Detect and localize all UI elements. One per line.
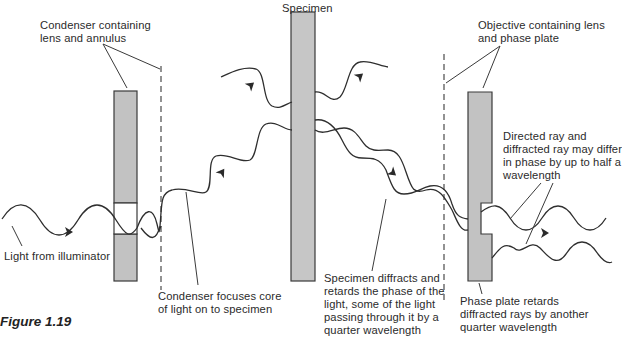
directed-ray-label: Directed ray and diffracted ray may diff… [503,130,622,182]
phase-plate-leader-line [479,283,482,294]
diffracted-wave-out [315,128,468,230]
phase-plate-label: Phase plate retards diffracted rays by a… [460,295,589,334]
condenser-leader-lines [103,44,160,88]
directed-ray-leader-lines [510,183,553,244]
figure-caption: Figure 1.19 [0,314,71,329]
direct-wave-out [315,120,468,219]
condenser-bar [114,91,137,281]
specimen-diffracts-label: Specimen diffracts and retards the phase… [324,272,445,337]
light-source-label: Light from illuminator [4,250,110,263]
specimen-label: Specimen [282,2,333,15]
arrow-up-right-icon [354,70,367,83]
condenser-focus-label: Condenser focuses core of light on to sp… [158,290,281,316]
upper-diffracted-wave-in [221,68,292,107]
objective-leader-lines [446,46,500,88]
focused-wave-lower [141,123,292,237]
specimen-diffracts-leader-line [372,199,386,271]
objective-bar [468,92,492,281]
arrow-up-right-icon [216,166,229,178]
light-leader-line [12,226,22,246]
condenser-focus-leader-line [186,192,198,285]
condenser-label: Condenser containing lens and annulus [40,19,151,45]
arrow-right-icon [541,228,549,238]
arrow-up-right-icon [245,79,258,92]
upper-diffracted-wave-out [315,62,388,100]
directed-ray-out [481,206,606,230]
objective-label: Objective containing lens and phase plat… [478,19,605,45]
specimen-bar [291,12,315,281]
diffracted-ray-out [492,242,612,263]
